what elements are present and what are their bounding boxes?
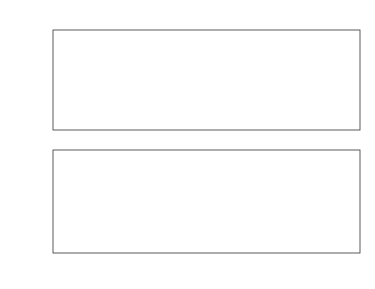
- top-axes-frame: [53, 30, 360, 130]
- bottom-axes-frame: [53, 150, 360, 253]
- top-axes: [53, 30, 360, 130]
- figure: [0, 0, 375, 289]
- bottom-axes: [53, 150, 360, 253]
